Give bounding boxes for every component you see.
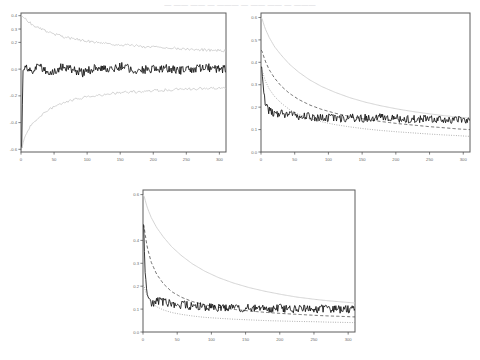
x-tick-label: 100 — [84, 157, 92, 162]
x-tick-label: 50 — [175, 337, 180, 342]
x-tick-label: 150 — [117, 157, 125, 162]
x-tick-label: 150 — [359, 157, 367, 162]
y-tick-label: -0.4 — [10, 120, 18, 125]
y-tick-label: 0.2 — [133, 284, 139, 289]
x-tick-label: 50 — [52, 157, 57, 162]
y-tick-label: 0.0 — [11, 67, 17, 72]
x-tick-label: 200 — [276, 337, 284, 342]
series-gray-solid-upper — [261, 17, 470, 117]
x-tick-label: 50 — [292, 157, 297, 162]
x-tick-label: 300 — [345, 337, 353, 342]
x-tick-label: 300 — [460, 157, 468, 162]
y-tick-label: -0.6 — [10, 147, 18, 152]
y-tick-label: 0.3 — [11, 27, 17, 32]
y-tick-label: 0.4 — [11, 13, 17, 18]
x-tick-label: 200 — [392, 157, 400, 162]
x-tick-label: 250 — [310, 337, 318, 342]
panel-frame-panel-top-left — [21, 13, 226, 152]
y-tick-label: 0.3 — [133, 261, 139, 266]
chart-panel-panel-bottom-center: 0501001502002503000.60.40.30.20.10.0 — [133, 190, 355, 342]
series-center-noisy — [21, 62, 226, 149]
y-tick-label: -0.2 — [10, 93, 18, 98]
x-tick-label: 100 — [325, 157, 333, 162]
x-tick-label: 100 — [208, 337, 216, 342]
y-tick-label: 0.6 — [251, 15, 257, 20]
y-tick-label: 0.2 — [251, 105, 257, 110]
x-tick-label: 0 — [260, 157, 263, 162]
x-tick-label: 250 — [426, 157, 434, 162]
chart-panel-panel-top-left: 0501001502002503000.40.30.20.0-0.2-0.4-0… — [10, 13, 226, 162]
y-tick-label: 0.4 — [133, 238, 139, 243]
y-tick-label: 0.1 — [133, 307, 139, 312]
y-tick-label: 0.1 — [251, 127, 257, 132]
x-tick-label: 150 — [242, 337, 250, 342]
y-tick-label: 0.2 — [11, 40, 17, 45]
x-tick-label: 0 — [142, 337, 145, 342]
series-lower-envelope — [21, 87, 226, 149]
series-group — [261, 17, 470, 136]
series-upper-envelope — [21, 16, 226, 52]
x-tick-label: 200 — [150, 157, 158, 162]
x-tick-label: 0 — [20, 157, 23, 162]
y-tick-label: 0.5 — [251, 38, 257, 43]
series-group — [21, 16, 226, 150]
y-tick-label: 0.0 — [251, 150, 257, 155]
series-group — [143, 195, 355, 323]
y-tick-label: 0.4 — [251, 60, 257, 65]
figure-canvas: 0501001502002503000.40.30.20.0-0.2-0.4-0… — [0, 0, 480, 360]
y-tick-label: 0.0 — [133, 330, 139, 335]
x-tick-label: 250 — [183, 157, 191, 162]
y-tick-label: 0.6 — [133, 192, 139, 197]
y-tick-label: 0.3 — [251, 82, 257, 87]
chart-panel-panel-top-right: 0501001502002503000.60.50.40.30.20.10.0 — [251, 13, 470, 162]
x-tick-label: 300 — [216, 157, 224, 162]
panel-frame-panel-top-right — [261, 13, 470, 152]
series-gray-solid-upper — [143, 195, 355, 303]
